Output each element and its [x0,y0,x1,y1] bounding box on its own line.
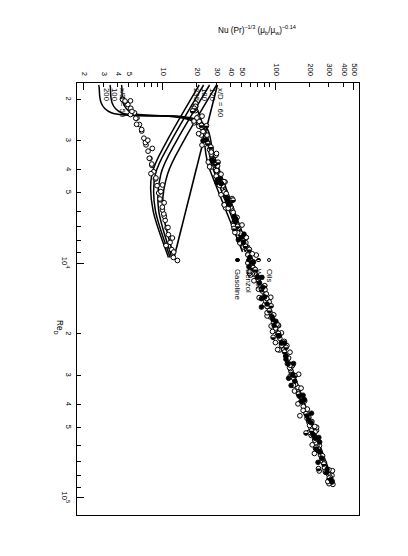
data-point [160,183,165,188]
x-tick-label: 2 [64,96,72,100]
x-axis-title-main: Re [55,320,64,330]
legend-item: Oils [263,258,274,300]
data-point [282,341,287,346]
rotated-figure-wrapper: 23451042345105 2345102030405010020030040… [38,20,370,536]
data-point [298,413,303,418]
y-axis-title-pr: (Pr) [231,26,245,35]
xd-label-primary: x/D = 50 [118,88,127,117]
y-tick-label: 3 [100,50,108,76]
data-point [210,158,215,163]
legend-marker [235,258,239,262]
data-point [317,440,322,445]
data-point [242,232,247,237]
legend-label: Water [253,269,264,290]
x-tick-label: 5 [64,425,72,429]
data-point [241,240,246,245]
data-point [313,436,318,441]
data-point [276,334,281,339]
data-point [166,225,171,230]
data-point [158,197,163,202]
y-tick-label: 500 [350,50,358,76]
y-tick-label: 40 [227,50,235,76]
data-point [139,127,144,132]
data-point [309,420,314,425]
data-point [147,156,152,161]
data-point [149,162,154,167]
data-point [133,116,138,121]
x-tick-label: 104 [60,257,72,269]
filled-circle-icon [232,258,243,269]
data-point [214,168,219,173]
data-point [284,357,289,362]
data-point [309,411,314,416]
legend-item: Gasoline [232,258,243,300]
legend-label: Gasoline [232,269,243,300]
legend-label: Oils [263,269,274,282]
xd-label: 235 [192,88,201,117]
x-tick-label: 4 [64,167,72,171]
x-tick-label: 2 [64,331,72,335]
data-point [164,243,169,248]
y-tick-label: 4 [114,50,122,76]
half-circle-icon [253,258,264,269]
data-point [265,302,270,307]
data-point [219,172,224,177]
data-point [201,129,206,134]
data-point [219,192,224,197]
data-point [155,183,160,188]
data-point [200,143,205,148]
y-tick-label: 5 [125,50,133,76]
y-tick-label: 300 [325,50,333,76]
legend-item: Water [253,258,264,300]
y-tick-label: 30 [213,50,221,76]
legend-item: Benzol [242,258,253,300]
data-point [291,361,296,366]
data-point [201,138,206,143]
legend-marker [246,258,250,262]
y-tick-label: 20 [193,50,201,76]
data-point [175,258,180,263]
data-point [302,397,307,402]
data-point [128,98,133,103]
data-point [289,383,294,388]
legend: OilsWaterBenzolGasoline [232,258,274,300]
data-point [286,362,291,367]
xd-label-primary: x/D = 60 [216,88,225,117]
data-point [273,340,278,345]
y-tick-label: 2 [80,50,88,76]
y-tick-label: 200 [306,50,314,76]
legend-marker [267,258,271,262]
y-axis-title-pr-exp: –1/3 [244,24,255,30]
data-point [227,202,232,207]
data-point [166,232,171,237]
data-point [209,150,214,155]
legend-marker [256,258,260,262]
figure: 23451042345105 2345102030405010020030040… [38,20,370,536]
x-axis-title-sub: D [53,330,59,334]
data-point [288,350,293,355]
legend-label: Benzol [242,269,253,293]
x-tick-label: 105 [60,492,72,504]
data-point [214,151,219,156]
y-axis-title-visc-open: (μ [258,26,265,35]
y-tick-label: 50 [238,50,246,76]
figure-page: 23451042345105 2345102030405010020030040… [0,0,408,556]
curve-label-lower-family: x/D = 50100200 [102,88,127,117]
x-tick-label: 3 [64,373,72,377]
data-point [290,372,295,377]
data-point [150,146,155,151]
data-point [232,218,237,223]
data-point [154,176,159,181]
x-tick-label: 3 [64,138,72,142]
x-axis-title: ReD [53,320,64,335]
data-point [130,109,135,114]
data-point [305,414,310,419]
data-point [275,347,280,352]
x-tick-label: 5 [64,190,72,194]
y-tick-label: 100 [272,50,280,76]
data-point [329,477,334,482]
data-point [171,250,176,255]
data-point [149,171,154,176]
xd-label: 180 [200,88,209,117]
data-point [274,319,279,324]
